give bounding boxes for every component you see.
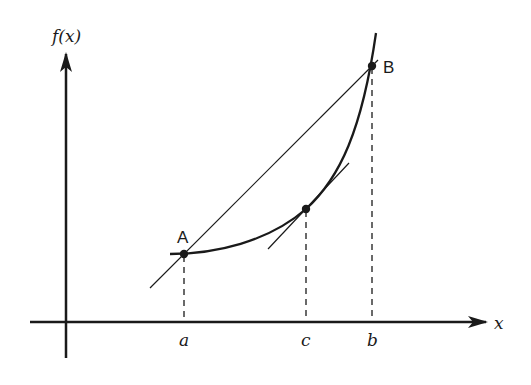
function-curve bbox=[170, 33, 376, 254]
point-b-dot bbox=[368, 62, 376, 70]
point-c-dot bbox=[302, 205, 310, 213]
tick-label-b: b bbox=[367, 330, 378, 350]
point-b-label: B bbox=[383, 58, 394, 77]
y-axis-label: f(x) bbox=[50, 26, 81, 46]
point-a-label: A bbox=[177, 228, 189, 247]
x-axis-label: x bbox=[494, 313, 504, 333]
tick-label-c: c bbox=[301, 330, 311, 350]
mean-value-theorem-diagram: f(x) x A B a c b bbox=[0, 0, 531, 385]
point-a-dot bbox=[180, 250, 188, 258]
tick-label-a: a bbox=[179, 330, 189, 350]
